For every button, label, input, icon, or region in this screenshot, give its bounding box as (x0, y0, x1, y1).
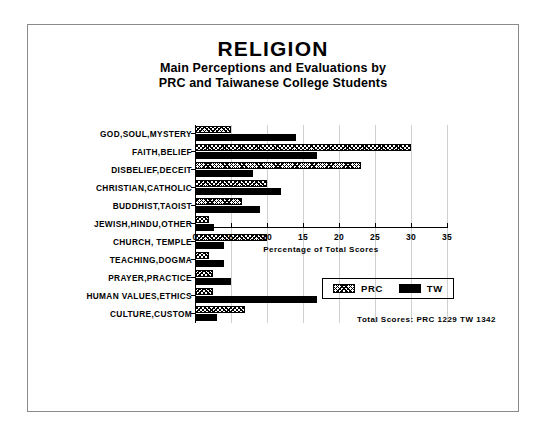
chart-legend: PRC TW (322, 278, 454, 299)
x-axis-tick-label: 20 (334, 232, 344, 242)
category-label: FAITH,BELIEF (46, 143, 192, 161)
title-block: RELIGION Main Perceptions and Evaluation… (28, 37, 518, 91)
bar-prc (195, 306, 245, 313)
chart-subtitle-line-2: PRC and Taiwanese College Students (28, 76, 518, 91)
x-axis-tick-label: 25 (370, 232, 380, 242)
x-axis-line (195, 227, 447, 228)
chart-figure: RELIGION Main Perceptions and Evaluation… (27, 24, 519, 412)
page-title: RELIGION (28, 37, 518, 61)
legend-item-tw: TW (399, 283, 443, 294)
category-label: JEWISH,HINDU,OTHER (46, 215, 192, 233)
category-label: TEACHING,DOGMA (46, 251, 192, 269)
x-axis-tick (195, 223, 196, 228)
legend-item-prc: PRC (333, 283, 383, 294)
category-label: GOD,SOUL,MYSTERY (46, 125, 192, 143)
bar-tw (195, 170, 253, 177)
category-axis-labels: GOD,SOUL,MYSTERYFAITH,BELIEFDISBELIEF,DE… (46, 125, 192, 323)
x-axis-title: Percentage of Total Scores (195, 245, 447, 254)
category-label: CHRISTIAN,CATHOLIC (46, 179, 192, 197)
chart-subtitle-line-1: Main Perceptions and Evaluations by (28, 61, 518, 76)
x-axis-tick-label: 10 (262, 232, 272, 242)
bar-prc (195, 198, 242, 205)
totals-note: Total Scores: PRC 1229 TW 1342 (357, 315, 496, 324)
x-axis-tick (411, 223, 412, 228)
x-axis: Percentage of Total Scores 0510152025303… (195, 227, 447, 267)
bar-tw (195, 296, 317, 303)
x-axis-tick (339, 223, 340, 228)
x-axis-tick (447, 223, 448, 228)
legend-swatch-prc-icon (333, 284, 355, 293)
x-axis-tick-label: 0 (192, 232, 197, 242)
category-label: DISBELIEF,DECEIT (46, 161, 192, 179)
bar-prc (195, 270, 213, 277)
bar-tw (195, 314, 217, 321)
bar-prc (195, 126, 231, 133)
x-axis-tick (303, 223, 304, 228)
legend-label-prc: PRC (361, 283, 383, 294)
x-axis-tick-label: 5 (228, 232, 233, 242)
bar-row (195, 125, 447, 143)
bar-tw (195, 188, 281, 195)
category-label: CHURCH, TEMPLE (46, 233, 192, 251)
bar-tw (195, 152, 317, 159)
bar-prc (195, 216, 209, 223)
bar-row (195, 179, 447, 197)
bar-prc (195, 180, 267, 187)
bar-prc (195, 144, 411, 151)
x-axis-tick-label: 35 (442, 232, 452, 242)
x-axis-tick (231, 223, 232, 228)
x-axis-tick (267, 223, 268, 228)
legend-swatch-tw-icon (399, 284, 421, 293)
bar-tw (195, 134, 296, 141)
bar-prc (195, 162, 361, 169)
x-axis-tick (375, 223, 376, 228)
bar-row (195, 197, 447, 215)
legend-label-tw: TW (427, 283, 443, 294)
bar-prc (195, 288, 213, 295)
bar-tw (195, 278, 231, 285)
category-label: BUDDHIST,TAOIST (46, 197, 192, 215)
bar-row (195, 161, 447, 179)
bar-row (195, 143, 447, 161)
category-label: CULTURE,CUSTOM (46, 305, 192, 323)
category-label: HUMAN VALUES,ETHICS (46, 287, 192, 305)
bar-tw (195, 206, 260, 213)
category-label: PRAYER,PRACTICE (46, 269, 192, 287)
x-axis-tick-label: 30 (406, 232, 416, 242)
x-axis-tick-label: 15 (298, 232, 308, 242)
